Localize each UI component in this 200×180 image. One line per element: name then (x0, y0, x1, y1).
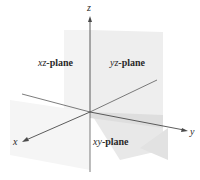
xy-plane-var: xy (93, 136, 102, 147)
xy-plane-label: xy-plane (93, 137, 129, 147)
yz-plane-label: yz-plane (110, 58, 145, 68)
yz-plane-suffix: -plane (118, 57, 145, 68)
z-axis-arrow (88, 16, 92, 22)
xz-plane-shape (10, 100, 90, 170)
xz-plane-label: xz-plane (38, 58, 73, 68)
z-axis-label: z (87, 3, 91, 13)
xz-plane-suffix: -plane (46, 57, 73, 68)
yz-plane-upper-band (64, 30, 90, 112)
axes-and-planes-graphic (0, 0, 200, 180)
y-axis-label: y (190, 127, 194, 137)
x-axis-label: x (13, 137, 17, 147)
coordinate-diagram: z y x xz-plane yz-plane xy-plane (0, 0, 200, 180)
y-axis-arrow (181, 128, 188, 132)
xy-plane-suffix: -plane (102, 136, 129, 147)
